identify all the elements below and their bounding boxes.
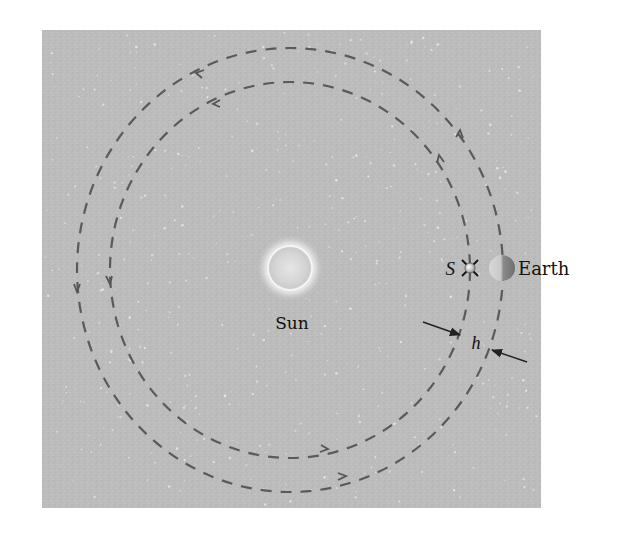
separation-label: h	[472, 333, 481, 353]
sun-label: Sun	[275, 313, 309, 333]
sun	[256, 234, 324, 302]
satellite-label: S	[446, 258, 456, 279]
earth-label: Earth	[518, 258, 570, 279]
earth-icon	[489, 255, 515, 281]
sun-earth-satellite-diagram: Sun S Earth h	[0, 0, 622, 536]
